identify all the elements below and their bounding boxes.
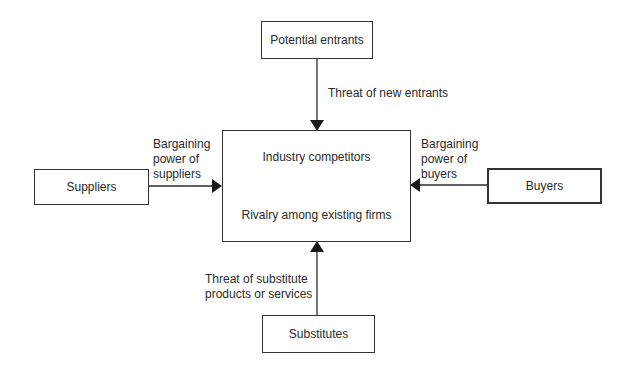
rivalry-label: Rivalry among existing firms [223,208,410,222]
substitute-threat-label: Threat of substitute products or service… [205,272,312,302]
suppliers-box: Suppliers [34,169,149,205]
arrow-right-icon [212,179,222,193]
potential-entrants-label: Potential entrants [270,33,363,47]
buyers-label: Buyers [526,179,563,193]
arrow-left-icon [410,178,420,192]
industry-competitors-box: Industry competitors Rivalry among exist… [222,130,411,242]
substitutes-label: Substitutes [289,327,348,341]
arrow-up-icon [310,241,324,252]
threat-new-entrants-label: Threat of new entrants [328,86,448,101]
suppliers-label: Suppliers [66,180,116,194]
buyers-box: Buyers [487,168,602,204]
buyer-power-label: Bargaining power of buyers [421,137,478,182]
industry-competitors-title: Industry competitors [223,150,410,164]
potential-entrants-box: Potential entrants [261,21,373,59]
substitutes-box: Substitutes [262,315,375,353]
supplier-power-label: Bargaining power of suppliers [153,137,210,182]
